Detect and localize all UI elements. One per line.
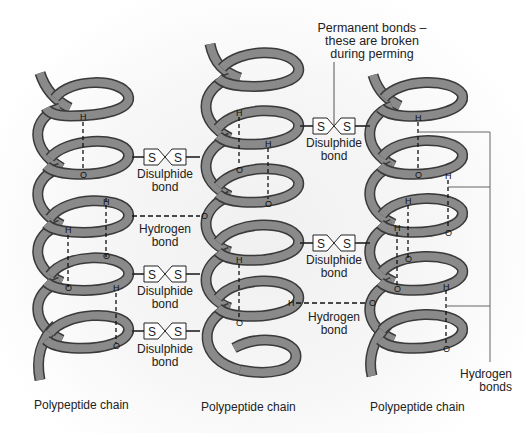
- svg-text:S: S: [148, 325, 156, 339]
- svg-text:H: H: [443, 282, 450, 292]
- disulphide-bond-label-3: Disulphidebond: [130, 343, 200, 369]
- disulphide-bond-label-1: Disulphidebond: [130, 168, 200, 194]
- svg-text:S: S: [317, 120, 325, 134]
- svg-text:S: S: [343, 120, 351, 134]
- svg-text:H: H: [65, 225, 72, 235]
- svg-text:H: H: [236, 255, 243, 265]
- diagram-canvas: HO HO HO HO O HO HO HO H O HO HO HO HO H…: [0, 0, 525, 433]
- svg-text:S: S: [174, 268, 182, 282]
- ss-box-3: SS: [144, 323, 186, 339]
- ss-box-1: SS: [144, 149, 186, 165]
- svg-text:O: O: [443, 344, 450, 354]
- svg-text:H: H: [288, 298, 295, 308]
- svg-text:O: O: [445, 228, 452, 238]
- svg-text:H: H: [103, 197, 110, 207]
- svg-text:O: O: [415, 170, 422, 180]
- middle-polypeptide-helix: [206, 44, 299, 372]
- svg-text:O: O: [265, 199, 272, 209]
- svg-text:S: S: [174, 325, 182, 339]
- helix-diagram: HO HO HO HO O HO HO HO H O HO HO HO HO H…: [0, 0, 525, 433]
- hydrogen-bonds-bracket-label: Hydrogenbonds: [448, 368, 512, 394]
- permanent-bonds-annotation: Permanent bonds – these are broken durin…: [302, 22, 442, 61]
- disulphide-bond-label-2: Disulphidebond: [130, 285, 200, 311]
- svg-text:S: S: [148, 151, 156, 165]
- disulphide-bond-label-5: Disulphidebond: [299, 254, 369, 280]
- svg-text:O: O: [369, 298, 376, 308]
- svg-text:H: H: [80, 112, 87, 122]
- svg-text:H: H: [445, 171, 452, 181]
- hydrogen-bond-label-1: Hydrogenbond: [130, 223, 200, 249]
- svg-text:O: O: [80, 170, 87, 180]
- hydrogen-bond-label-2: Hydrogenbond: [299, 311, 369, 337]
- svg-text:H: H: [236, 108, 243, 118]
- svg-text:O: O: [201, 211, 208, 221]
- ss-box-2: SS: [144, 266, 186, 282]
- svg-text:O: O: [236, 165, 243, 175]
- svg-text:H: H: [113, 283, 120, 293]
- ss-box-5: SS: [313, 235, 355, 251]
- svg-text:O: O: [405, 254, 412, 264]
- svg-text:S: S: [317, 237, 325, 251]
- svg-text:S: S: [174, 151, 182, 165]
- svg-text:O: O: [103, 251, 110, 261]
- right-chain-label: Polypeptide chain: [370, 400, 465, 414]
- svg-text:S: S: [343, 237, 351, 251]
- svg-text:O: O: [113, 341, 120, 351]
- svg-text:H: H: [265, 139, 272, 149]
- disulphide-bond-label-4: Disulphidebond: [299, 137, 369, 163]
- svg-text:O: O: [236, 318, 243, 328]
- svg-text:O: O: [394, 284, 401, 294]
- svg-text:O: O: [65, 283, 72, 293]
- svg-text:S: S: [148, 268, 156, 282]
- svg-text:H: H: [415, 113, 422, 123]
- left-chain-label: Polypeptide chain: [34, 398, 129, 412]
- middle-chain-label: Polypeptide chain: [201, 400, 296, 414]
- svg-text:H: H: [394, 223, 401, 233]
- svg-text:H: H: [405, 196, 412, 206]
